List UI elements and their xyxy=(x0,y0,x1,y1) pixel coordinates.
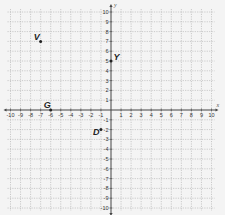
point-label: Y xyxy=(114,52,121,62)
y-tick-label: -10 xyxy=(101,205,109,211)
x-tick-label: 2 xyxy=(130,112,133,118)
y-tick-label: 2 xyxy=(105,87,108,93)
y-tick-label: 10 xyxy=(102,9,108,15)
y-tick-label: -4 xyxy=(104,146,109,152)
y-tick-label: 8 xyxy=(105,29,108,35)
point-label: G xyxy=(44,100,51,110)
x-tick-label: -4 xyxy=(68,112,73,118)
point-label: D xyxy=(93,127,100,137)
x-tick-label: -10 xyxy=(7,112,15,118)
y-axis-arrow-up-icon xyxy=(109,4,112,7)
y-tick-label: -9 xyxy=(104,195,109,201)
y-tick-label: -7 xyxy=(104,176,109,182)
point-marker xyxy=(99,128,102,131)
point-label: V xyxy=(34,32,41,42)
y-tick-label: -6 xyxy=(104,166,109,172)
y-tick-label: 7 xyxy=(105,38,108,44)
y-tick-label: -3 xyxy=(104,136,109,142)
y-tick-label: 6 xyxy=(105,48,108,54)
y-tick-label: -8 xyxy=(104,185,109,191)
x-tick-label: -6 xyxy=(48,112,53,118)
x-tick-label: 9 xyxy=(200,112,203,118)
y-tick-label: 1 xyxy=(105,97,108,103)
x-tick-label: -2 xyxy=(88,112,93,118)
y-tick-label: 3 xyxy=(105,78,108,84)
x-tick-label: -7 xyxy=(38,112,43,118)
point-marker xyxy=(110,60,113,63)
y-tick-label: -5 xyxy=(104,156,109,162)
x-tick-label: -5 xyxy=(58,112,63,118)
x-tick-label: 8 xyxy=(190,112,193,118)
x-tick-label: 7 xyxy=(180,112,183,118)
x-tick-label: -3 xyxy=(78,112,83,118)
y-axis-arrow-down-icon xyxy=(109,213,112,215)
y-tick-label: -2 xyxy=(104,127,109,133)
y-axis-label: y xyxy=(113,2,117,8)
coordinate-plane: -10-9-8-7-6-5-4-3-2-112345678910-10-9-8-… xyxy=(0,0,225,215)
x-tick-label: 10 xyxy=(208,112,214,118)
x-tick-label: -9 xyxy=(18,112,23,118)
x-axis-arrow-right-icon xyxy=(216,108,219,111)
x-axis-label: x xyxy=(216,102,220,108)
x-tick-label: 1 xyxy=(120,112,123,118)
y-tick-label: -1 xyxy=(104,117,109,123)
x-tick-label: -8 xyxy=(28,112,33,118)
x-tick-label: 4 xyxy=(150,112,153,118)
y-tick-label: 4 xyxy=(105,68,108,74)
y-tick-label: 9 xyxy=(105,19,108,25)
x-tick-label: 3 xyxy=(140,112,143,118)
x-tick-label: 6 xyxy=(170,112,173,118)
x-tick-label: 5 xyxy=(160,112,163,118)
y-tick-label: 5 xyxy=(105,58,108,64)
